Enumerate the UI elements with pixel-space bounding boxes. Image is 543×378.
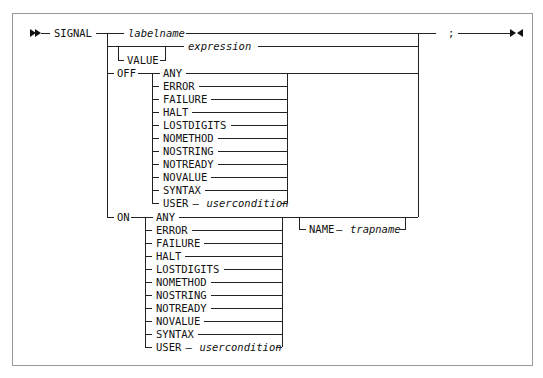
terminator-semicolon: ; xyxy=(448,27,454,39)
diagram-frame xyxy=(13,14,533,366)
condition-user: USER xyxy=(156,341,182,353)
condition-novalue: NOVALUE xyxy=(163,171,207,183)
condition-any: ANY xyxy=(163,67,183,79)
keyword-name: NAME xyxy=(309,223,334,235)
keyword-off: OFF xyxy=(117,67,136,79)
condition-nostring: NOSTRING xyxy=(163,145,214,157)
rail xyxy=(108,204,115,218)
rail xyxy=(119,46,125,61)
on-conditions: ANYERRORFAILUREHALTLOSTDIGITSNOMETHODNOS… xyxy=(145,211,283,353)
dash: — xyxy=(185,341,192,353)
dash: — xyxy=(192,197,199,209)
off-conditions: ANYERRORFAILUREHALTLOSTDIGITSNOMETHODNOS… xyxy=(152,67,289,209)
dash: — xyxy=(336,223,343,235)
condition-lostdigits: LOSTDIGITS xyxy=(163,119,226,131)
condition-any: ANY xyxy=(156,211,176,223)
keyword-on: ON xyxy=(117,211,130,223)
variable-usercondition: usercondition xyxy=(206,197,288,209)
condition-notready: NOTREADY xyxy=(163,158,214,170)
variable-expression: expression xyxy=(188,40,251,52)
keyword-value: VALUE xyxy=(127,54,159,66)
start-marker-icon xyxy=(30,29,41,37)
condition-nomethod: NOMETHOD xyxy=(163,132,214,144)
variable-labelname: labelname xyxy=(128,27,185,39)
condition-failure: FAILURE xyxy=(156,237,200,249)
syntax-diagram: SIGNAL labelname expression VALUE OFF AN… xyxy=(0,0,543,378)
condition-nostring: NOSTRING xyxy=(156,289,207,301)
condition-user: USER xyxy=(163,197,189,209)
end-marker-icon xyxy=(510,29,523,37)
rail xyxy=(160,46,166,61)
condition-nomethod: NOMETHOD xyxy=(156,276,207,288)
condition-halt: HALT xyxy=(163,106,189,118)
condition-halt: HALT xyxy=(156,250,182,262)
condition-error: ERROR xyxy=(163,80,195,92)
condition-notready: NOTREADY xyxy=(156,302,207,314)
rail xyxy=(300,217,307,230)
variable-usercondition: usercondition xyxy=(199,341,281,353)
condition-failure: FAILURE xyxy=(163,93,207,105)
condition-syntax: SYNTAX xyxy=(156,328,195,340)
condition-novalue: NOVALUE xyxy=(156,315,200,327)
variable-trapname: trapname xyxy=(350,223,401,235)
condition-syntax: SYNTAX xyxy=(163,184,202,196)
condition-lostdigits: LOSTDIGITS xyxy=(156,263,219,275)
keyword-signal: SIGNAL xyxy=(54,27,92,39)
condition-error: ERROR xyxy=(156,224,188,236)
